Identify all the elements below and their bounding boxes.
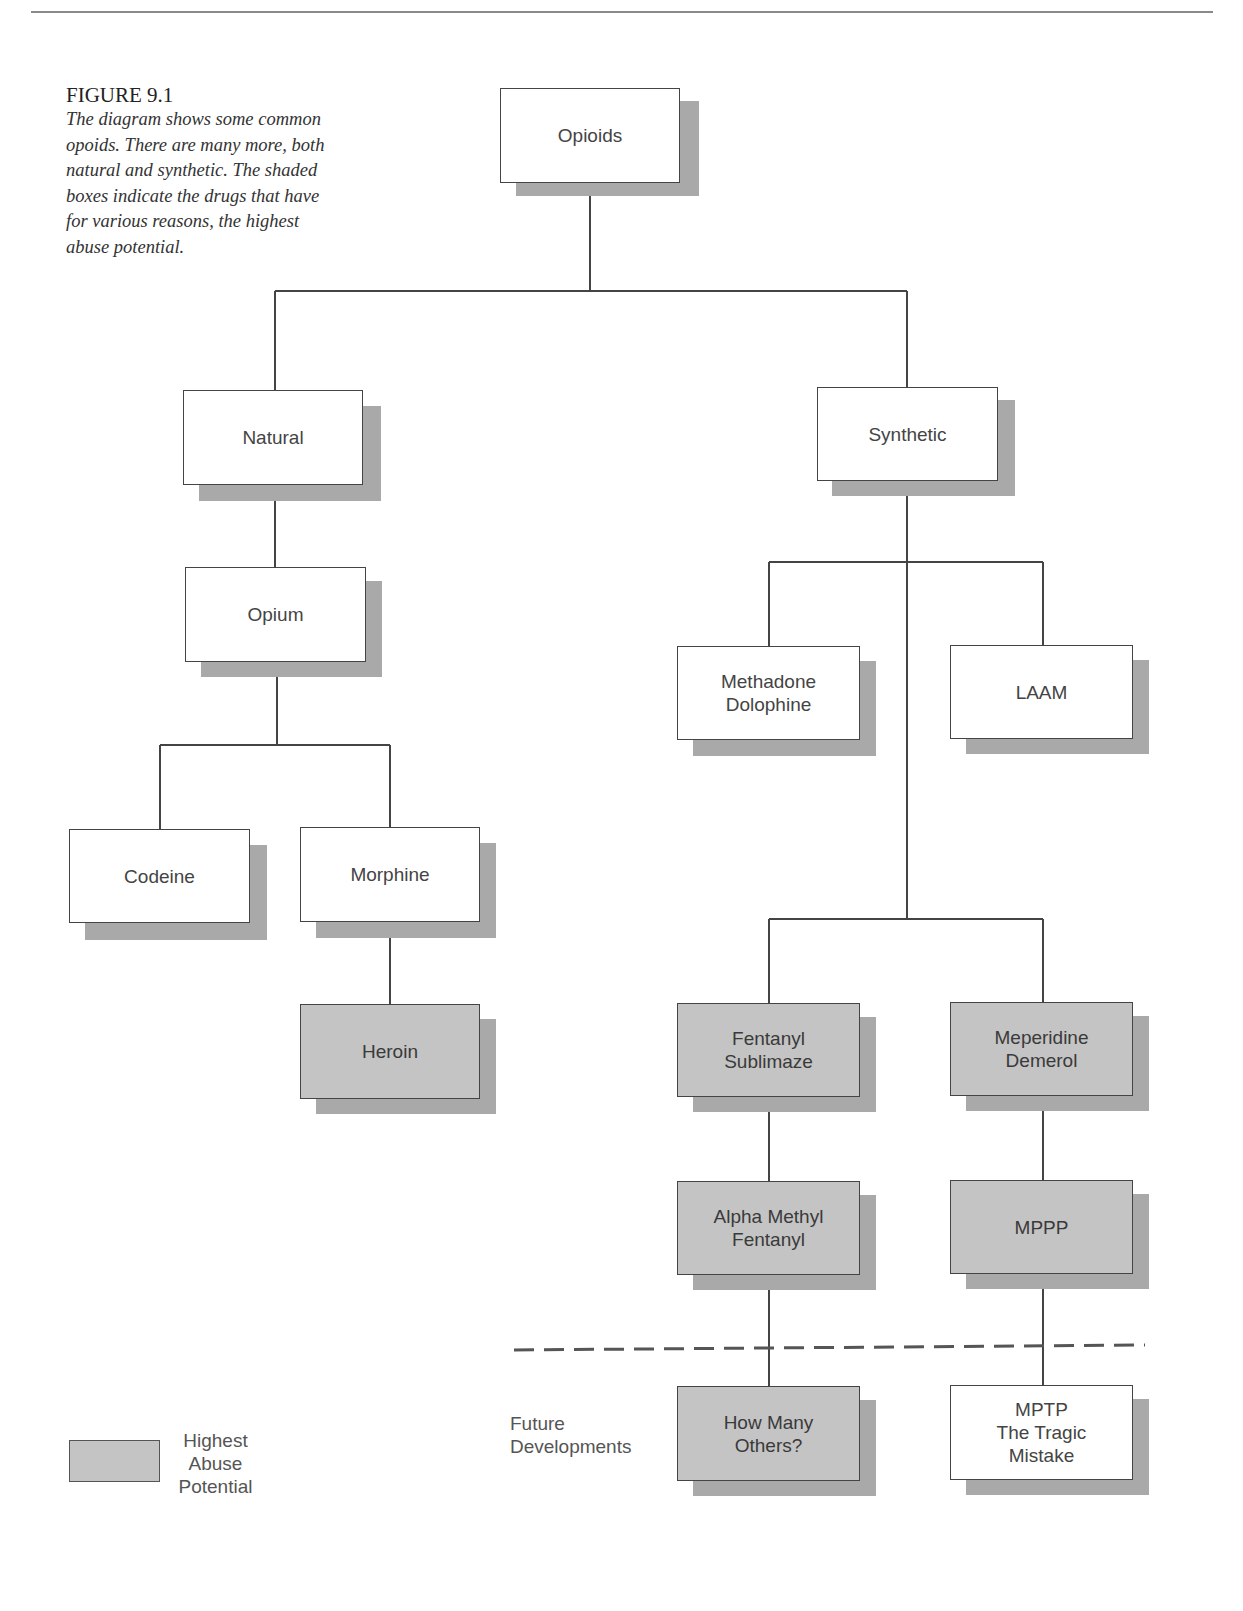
node-mptp-label: MPTP The Tragic Mistake	[950, 1385, 1133, 1480]
node-codeine-label: Codeine	[69, 829, 250, 923]
node-meperidine-label: Meperidine Demerol	[950, 1002, 1133, 1096]
future-divider	[514, 1345, 1145, 1350]
connector-lines	[0, 0, 1243, 1611]
node-opioids-label: Opioids	[500, 88, 680, 183]
node-natural-label: Natural	[183, 390, 363, 485]
node-alpha-methyl-fentanyl-label: Alpha Methyl Fentanyl	[677, 1181, 860, 1275]
node-how-many-others-label: How Many Others?	[677, 1386, 860, 1481]
legend-swatch	[69, 1440, 160, 1482]
node-synthetic-label: Synthetic	[817, 387, 998, 481]
legend-label: Highest Abuse Potential	[168, 1429, 263, 1498]
node-fentanyl-label: Fentanyl Sublimaze	[677, 1003, 860, 1097]
future-developments-label: Future Developments	[510, 1412, 631, 1458]
node-heroin-label: Heroin	[300, 1004, 480, 1099]
node-opium-label: Opium	[185, 567, 366, 662]
node-methadone-label: Methadone Dolophine	[677, 646, 860, 740]
node-laam-label: LAAM	[950, 645, 1133, 739]
node-mppp-label: MPPP	[950, 1180, 1133, 1274]
node-morphine-label: Morphine	[300, 827, 480, 922]
